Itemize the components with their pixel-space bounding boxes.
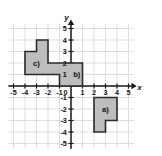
x-tick-label: 4	[115, 88, 119, 97]
y-tick-label: 1	[63, 70, 67, 79]
y-axis-name: y	[63, 13, 69, 22]
x-tick-label: -5	[10, 88, 16, 97]
y-tick-label: -2	[60, 105, 66, 114]
x-tick-label: -3	[33, 88, 39, 97]
y-tick-label: 4	[63, 36, 67, 45]
x-tick-label: -2	[45, 88, 51, 97]
shape-polygon-a	[94, 98, 117, 133]
x-tick-label: 1	[81, 88, 85, 97]
x-tick-label: 5	[127, 88, 131, 97]
y-tick-label: -3	[60, 116, 66, 125]
coordinate-plane-figure: -5-4-3-2-101234554321-1-2-3-4-5 a)b)c) x…	[0, 0, 162, 156]
y-tick-label: -5	[60, 139, 66, 148]
shape-label-a: a)	[102, 105, 109, 114]
shape-label-c: c)	[33, 59, 40, 68]
x-tick-label: -4	[22, 88, 28, 97]
x-axis-arrowhead	[131, 83, 136, 89]
coordinate-plot-svg: -5-4-3-2-101234554321-1-2-3-4-5 a)b)c) x…	[0, 0, 162, 156]
x-tick-label: 3	[104, 88, 108, 97]
y-axis-arrowhead	[68, 20, 74, 26]
y-tick-label: 3	[63, 47, 67, 56]
shape-label-b: b)	[73, 70, 81, 79]
y-tick-label: -1	[60, 93, 66, 102]
x-axis-name: x	[136, 83, 142, 92]
x-tick-label: 2	[92, 88, 96, 97]
y-tick-label: 2	[63, 59, 67, 68]
y-tick-label: 5	[63, 24, 67, 33]
y-tick-label: -4	[60, 128, 66, 137]
